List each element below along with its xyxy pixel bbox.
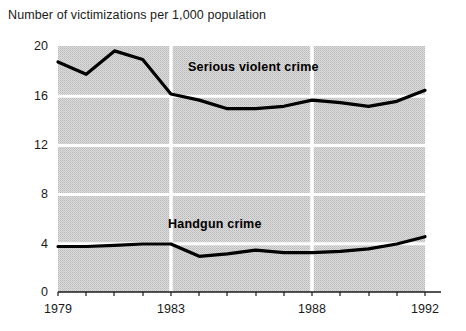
- x-tick-label-1992: 1992: [402, 303, 448, 315]
- y-tick-label-12: 12: [18, 139, 48, 151]
- series-label-serious-violent-crime: Serious violent crime: [188, 60, 319, 74]
- plot-background: [58, 46, 425, 292]
- x-tick-label-1979: 1979: [35, 303, 81, 315]
- y-tick-label-4: 4: [18, 238, 48, 250]
- chart-plot-area: [0, 0, 466, 331]
- x-tick-label-1988: 1988: [289, 303, 335, 315]
- x-tick-label-1983: 1983: [148, 303, 194, 315]
- y-tick-label-20: 20: [18, 40, 48, 52]
- chart-container: Number of victimizations per 1,000 popul…: [0, 0, 466, 331]
- series-label-handgun-crime: Handgun crime: [168, 217, 262, 231]
- y-tick-label-0: 0: [18, 286, 48, 298]
- y-tick-label-16: 16: [18, 90, 48, 102]
- y-tick-label-8: 8: [18, 188, 48, 200]
